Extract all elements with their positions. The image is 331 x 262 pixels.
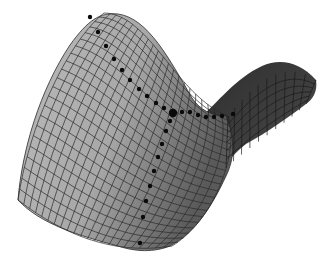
path-dot-upper [145,94,149,98]
path-dot-upper [88,15,92,19]
path-dot-upper [104,44,108,48]
path-dot-lower [160,142,164,146]
path-dot-lower [168,119,172,123]
path-dot-lower [138,241,142,245]
saddle-surface-plot [0,0,331,262]
path-dot-lower [156,155,160,159]
path-dot-upper [128,78,132,82]
saddle-figure [0,0,331,262]
path-dot-upper [162,106,166,110]
path-dot-lower [148,184,152,188]
path-dot-upper [137,87,141,91]
path-dot-lower [144,199,148,203]
path-dot-right [212,115,216,119]
path-dot-upper [96,30,100,34]
path-dot-lower [152,169,156,173]
path-dot-upper [120,68,124,72]
path-dot-right [220,114,224,118]
path-dot-right [188,110,192,114]
path-dot-upper [112,57,116,61]
saddle-point-marker [169,109,177,117]
path-dot-right [204,115,208,119]
path-dot-right [180,110,184,114]
path-dot-lower [164,129,168,133]
path-dot-lower [141,215,145,219]
path-dot-upper [154,101,158,105]
path-dot-right [196,113,200,117]
path-dot-right [231,112,235,116]
